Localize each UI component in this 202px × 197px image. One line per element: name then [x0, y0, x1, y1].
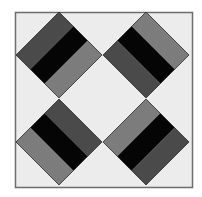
quilt-block	[0, 0, 202, 197]
